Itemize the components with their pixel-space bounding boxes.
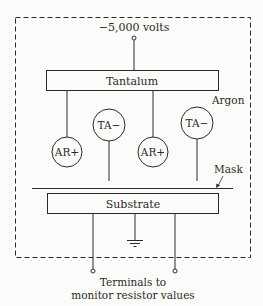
mask-pointer-arrow (218, 176, 223, 186)
vacuum-chamber-boundary (16, 18, 251, 258)
ground-icon (127, 241, 143, 247)
ion-label: TA− (98, 119, 121, 131)
arrowhead-icon (216, 184, 220, 189)
voltage-label: −5,000 volts (99, 21, 170, 34)
terminal-icon (173, 269, 177, 273)
substrate-label: Substrate (106, 198, 160, 211)
argon-label: Argon (211, 94, 245, 106)
sputtering-diagram: −5,000 volts Tantalum Argon AR+ TA− AR+ … (0, 0, 263, 306)
ion-label: AR+ (54, 146, 79, 158)
terminal-icon (91, 269, 95, 273)
voltage-terminal-icon (132, 36, 136, 40)
mask-label: Mask (214, 163, 243, 175)
tantalum-label: Tantalum (106, 75, 159, 88)
terminals-label-line2: monitor resistor values (71, 289, 194, 301)
ion-label: TA− (186, 117, 209, 129)
terminals-label-line1: Terminals to (100, 276, 166, 288)
ion-label: AR+ (140, 146, 165, 158)
